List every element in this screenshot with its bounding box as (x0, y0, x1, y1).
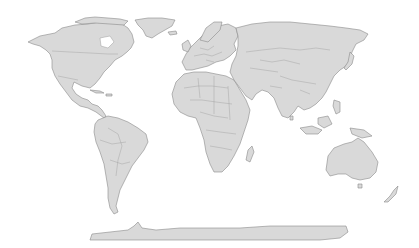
south-america (94, 116, 148, 214)
philippines (333, 100, 340, 114)
hispaniola (106, 94, 112, 96)
sri-lanka (290, 116, 293, 120)
asia (230, 22, 368, 118)
north-america (28, 22, 134, 118)
greenland (135, 18, 175, 38)
antarctica (90, 222, 348, 240)
new-zealand (384, 186, 398, 202)
australia (326, 138, 378, 180)
indonesia (300, 126, 322, 134)
borneo (318, 116, 332, 128)
madagascar (246, 146, 254, 162)
iceland (168, 31, 177, 35)
cuba (90, 90, 104, 93)
world-map (0, 0, 419, 248)
africa (172, 72, 250, 172)
new-guinea (350, 128, 372, 138)
tasmania (358, 184, 362, 188)
